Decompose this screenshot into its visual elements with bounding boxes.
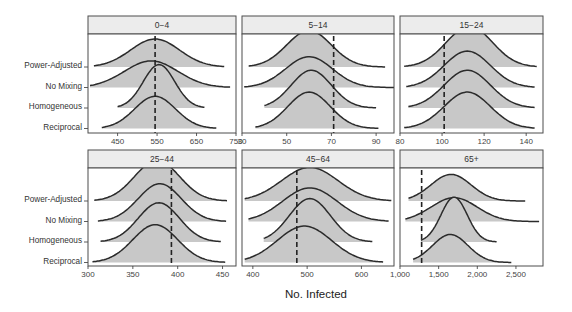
x-tick-label: 30	[238, 137, 247, 146]
x-tick-label: 120	[477, 137, 491, 146]
facet-title: 25−44	[150, 154, 174, 164]
facet-panel-65+: 65+1,0001,5002,0002,500	[390, 150, 543, 279]
category-label: Homogeneous	[29, 102, 82, 111]
x-tick-label: 90	[372, 137, 381, 146]
x-tick-label: 80	[396, 137, 405, 146]
facet-panel-0-4: 0−4450550650750	[88, 16, 243, 146]
category-label: Reciprocal	[43, 257, 82, 266]
x-tick-label: 550	[150, 137, 164, 146]
x-tick-label: 1,000	[390, 270, 411, 279]
x-tick-label: 100	[435, 137, 449, 146]
facet-panel-45-64: 45−64400500600	[242, 150, 394, 279]
facet-title: 0−4	[155, 20, 170, 30]
facet-title: 45−64	[306, 154, 330, 164]
x-tick-label: 1,500	[429, 270, 450, 279]
facet-panel-5-14: 5−1430507090	[238, 16, 394, 146]
facet-panel-25-44: 25−44300350400450	[81, 150, 236, 279]
x-tick-label: 70	[327, 137, 336, 146]
x-tick-label: 2,500	[506, 270, 527, 279]
facet-title: 15−24	[460, 20, 484, 30]
x-tick-label: 500	[300, 270, 314, 279]
facet-title: 5−14	[308, 20, 327, 30]
category-label: No Mixing	[46, 82, 83, 91]
facet-title: 65+	[464, 154, 478, 164]
category-label: No Mixing	[46, 216, 83, 225]
x-tick-label: 50	[282, 137, 291, 146]
x-tick-label: 350	[126, 270, 140, 279]
x-tick-label: 450	[111, 137, 125, 146]
category-label: Homogeneous	[29, 236, 82, 245]
x-tick-label: 400	[246, 270, 260, 279]
x-tick-label: 600	[355, 270, 369, 279]
facet-panels: 0−44505506507505−143050709015−2480100120…	[81, 16, 543, 279]
x-tick-label: 400	[171, 270, 185, 279]
category-label: Power-Adjusted	[24, 61, 82, 70]
y-axis-category-labels: Power-AdjustedNo MixingHomogeneousRecipr…	[24, 61, 88, 266]
category-label: Reciprocal	[43, 123, 82, 132]
x-tick-label: 650	[190, 137, 204, 146]
x-tick-label: 2,000	[467, 270, 488, 279]
facet-panel-15-24: 15−2480100120140	[396, 16, 543, 146]
x-tick-label: 300	[81, 270, 95, 279]
x-axis-title: No. Infected	[285, 288, 347, 300]
ridgeline-figure: Power-AdjustedNo MixingHomogeneousRecipr…	[0, 0, 572, 312]
x-tick-label: 140	[519, 137, 533, 146]
x-tick-label: 450	[216, 270, 230, 279]
category-label: Power-Adjusted	[24, 195, 82, 204]
